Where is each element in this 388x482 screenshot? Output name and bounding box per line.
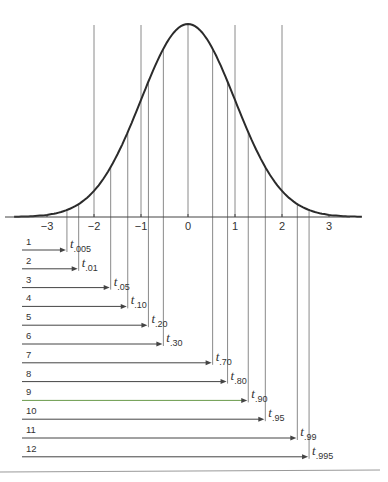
axis-tick-label: −3 — [41, 220, 54, 232]
quantile-label: t.005 — [70, 236, 91, 254]
row-number: 3 — [26, 274, 31, 285]
arrowhead-icon — [206, 360, 212, 365]
axis-tick-label: 0 — [185, 220, 191, 232]
quantile-rows: 1t.0052t.013t.054t.105t.206t.307t.708t.8… — [22, 236, 333, 461]
quantile-label: t.10 — [131, 292, 147, 310]
row-number: 11 — [26, 424, 36, 435]
arrowhead-icon — [72, 266, 78, 271]
quantile-row: 7t.70 — [22, 349, 232, 367]
quantile-label: t.01 — [82, 255, 98, 273]
row-number: 12 — [26, 443, 37, 454]
row-number: 7 — [26, 349, 31, 360]
quantile-row: 1t.005 — [22, 236, 91, 254]
quantile-label: t.95 — [268, 405, 284, 423]
axis-tick-label: 1 — [232, 220, 238, 232]
row-number: 6 — [26, 330, 31, 341]
row-number: 10 — [26, 405, 37, 416]
arrowhead-icon — [290, 436, 296, 441]
row-number: 4 — [26, 292, 31, 303]
axis-tick-label: −1 — [135, 220, 148, 232]
arrowhead-icon — [241, 398, 247, 403]
quantile-row: 10t.95 — [22, 405, 284, 423]
quantile-label: t.995 — [312, 443, 333, 461]
bottom-divider — [0, 470, 380, 472]
quantile-label: t.70 — [216, 349, 232, 367]
arrowhead-icon — [141, 323, 147, 328]
quantile-label: t.20 — [151, 311, 167, 329]
x-axis: −3−2−10123 — [5, 214, 350, 232]
row-number: 5 — [26, 311, 31, 322]
axis-tick-label: 2 — [279, 220, 285, 232]
axis-tick-label: −2 — [88, 220, 101, 232]
row-number: 9 — [26, 386, 31, 397]
axis-tick-label: 3 — [326, 220, 332, 232]
arrowhead-icon — [156, 342, 162, 347]
arrowhead-icon — [302, 454, 308, 459]
quantile-row: 2t.01 — [22, 255, 98, 273]
arrowhead-icon — [221, 379, 227, 384]
quantile-row: 6t.30 — [22, 330, 183, 348]
reference-lines — [94, 25, 282, 217]
arrowhead-icon — [258, 417, 264, 422]
arrowhead-icon — [60, 248, 66, 253]
quantile-row: 9t.90 — [22, 386, 267, 404]
row-number: 1 — [26, 236, 31, 247]
quantile-row: 5t.20 — [22, 311, 168, 329]
arrowhead-icon — [104, 285, 110, 290]
row-number: 2 — [26, 255, 31, 266]
quantile-row: 12t.995 — [22, 443, 333, 461]
arrowhead-icon — [121, 304, 127, 309]
quantile-row: 3t.05 — [22, 274, 130, 292]
quantile-label: t.30 — [166, 330, 182, 348]
quantile-label: t.80 — [231, 368, 247, 386]
quantile-row: 11t.99 — [22, 424, 316, 442]
quantile-label: t.99 — [300, 424, 316, 442]
quantile-row: 8t.80 — [22, 368, 247, 386]
normal-quantile-diagram: −3−2−10123 1t.0052t.013t.054t.105t.206t.… — [0, 0, 388, 482]
row-number: 8 — [26, 368, 31, 379]
